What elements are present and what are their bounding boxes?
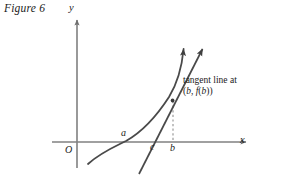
figure-panel: Figure 6 y x O a c b tangent line at (b,…	[0, 0, 282, 178]
tangent-annotation-line2: (b, f(b))	[183, 87, 237, 97]
tangent-annotation-line1: tangent line at	[183, 76, 237, 86]
tangency-point-dot	[171, 99, 175, 103]
figure-caption: Figure 6	[4, 3, 45, 15]
x-tick-label-b: b	[170, 143, 175, 153]
tangent-line	[139, 49, 203, 174]
x-axis-label: x	[240, 135, 245, 146]
annotation-close-parens: ))	[206, 86, 212, 96]
x-tick-label-c: c	[150, 143, 154, 153]
tangent-line-annotation: tangent line at (b, f(b))	[183, 76, 237, 96]
x-tick-label-a: a	[121, 128, 126, 138]
y-axis-label: y	[69, 3, 74, 14]
figure-graphic	[0, 0, 282, 178]
origin-label: O	[65, 145, 72, 155]
